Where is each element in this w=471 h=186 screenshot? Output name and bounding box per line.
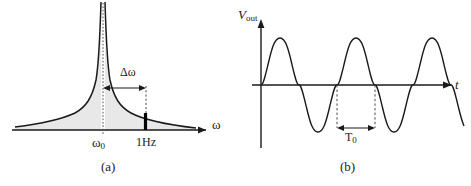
omega-axis-label: ω — [212, 118, 221, 131]
panel-a-caption: (a) — [101, 160, 115, 173]
t-axis-label: t — [455, 78, 459, 91]
omega-zero-label: ω0 — [92, 136, 105, 151]
period-arrowhead-left — [337, 125, 344, 131]
delta-omega-label: Δω — [120, 66, 136, 78]
one-hz-label: 1Hz — [136, 136, 156, 148]
delta-omega-arrowhead-right — [139, 85, 146, 91]
vout-axis-label: Vout — [238, 8, 257, 23]
period-label: T0 — [345, 131, 357, 145]
spectrum-fill — [15, 6, 101, 130]
figure-svg — [0, 0, 471, 186]
panel-a-group — [12, 2, 206, 134]
omega-axis-arrowhead — [198, 127, 206, 134]
period-arrowhead-right — [368, 125, 375, 131]
spectrum-fill-right — [105, 6, 196, 130]
panel-b-group — [252, 19, 464, 148]
omega-zero-subscript: 0 — [101, 141, 106, 151]
panel-b-caption: (b) — [340, 160, 355, 173]
vout-axis-arrowhead — [258, 19, 265, 28]
period-subscript: 0 — [352, 135, 357, 145]
vout-subscript: out — [246, 13, 258, 23]
figure-container: ω0 1Hz ω Δω (a) Vout t T0 (b) — [0, 0, 471, 186]
